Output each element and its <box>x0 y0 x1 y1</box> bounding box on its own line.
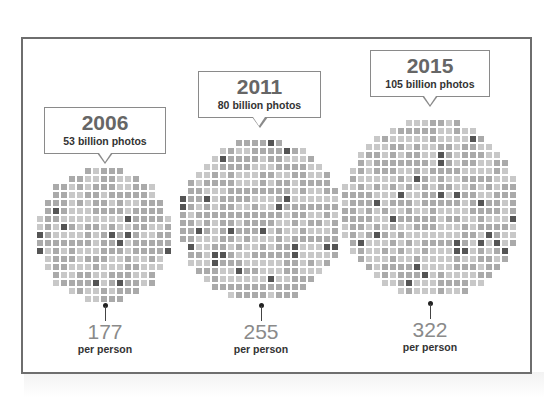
photo-square <box>53 208 59 214</box>
photo-square <box>316 236 322 242</box>
photo-square <box>244 268 250 274</box>
photo-square <box>204 252 210 258</box>
photo-square <box>406 136 412 142</box>
photo-square <box>236 220 242 226</box>
photo-square <box>69 176 75 182</box>
photo-square <box>236 148 242 154</box>
photo-square <box>228 196 234 202</box>
photo-square <box>300 284 306 290</box>
photo-square <box>236 204 242 210</box>
photo-square <box>406 280 412 286</box>
photo-square <box>101 200 107 206</box>
photo-square <box>316 164 322 170</box>
photo-square <box>292 260 298 266</box>
photo-square <box>220 180 226 186</box>
photo-square <box>478 280 484 286</box>
photo-square <box>502 192 508 198</box>
photo-square <box>332 252 338 258</box>
photo-square <box>470 232 476 238</box>
photo-square <box>284 180 290 186</box>
photo-square <box>244 196 250 202</box>
photo-square <box>366 200 372 206</box>
photo-square <box>382 240 388 246</box>
photo-square <box>276 220 282 226</box>
photo-square <box>374 192 380 198</box>
photo-square <box>93 184 99 190</box>
photo-square <box>390 272 396 278</box>
photo-square <box>157 248 163 254</box>
photo-square <box>366 176 372 182</box>
photo-square <box>462 272 468 278</box>
photo-square <box>406 240 412 246</box>
photo-square <box>414 144 420 150</box>
photo-square <box>398 208 404 214</box>
photo-square <box>350 208 356 214</box>
photo-square <box>398 136 404 142</box>
photo-square <box>462 240 468 246</box>
photo-square <box>204 268 210 274</box>
photo-square <box>236 156 242 162</box>
photos-count: 53 billion photos <box>45 135 165 148</box>
photo-square <box>284 228 290 234</box>
photo-square <box>422 120 428 126</box>
photo-square <box>125 216 131 222</box>
photo-square <box>212 180 218 186</box>
photo-square <box>382 176 388 182</box>
photo-square <box>268 260 274 266</box>
photo-square <box>350 200 356 206</box>
photo-square <box>220 212 226 218</box>
photo-square <box>220 252 226 258</box>
photo-square <box>284 268 290 274</box>
photo-square <box>438 280 444 286</box>
photo-square <box>382 200 388 206</box>
photos-count: 80 billion photos <box>199 99 320 112</box>
photo-square <box>228 164 234 170</box>
photo-square <box>85 216 91 222</box>
photo-square <box>77 264 83 270</box>
photo-square <box>93 280 99 286</box>
photo-square <box>101 296 107 302</box>
photo-square <box>133 208 139 214</box>
photo-square <box>430 272 436 278</box>
photo-square <box>350 240 356 246</box>
photo-square <box>292 252 298 258</box>
photo-square <box>276 140 282 146</box>
photo-square <box>414 200 420 206</box>
photo-square <box>470 208 476 214</box>
photo-square <box>422 216 428 222</box>
photo-square <box>228 292 234 298</box>
photo-square <box>101 224 107 230</box>
photo-square <box>390 128 396 134</box>
photo-square <box>502 240 508 246</box>
photo-square <box>236 236 242 242</box>
photo-square <box>422 240 428 246</box>
photo-square <box>430 288 436 294</box>
photo-square <box>61 240 67 246</box>
photo-square <box>510 216 516 222</box>
photo-square <box>220 188 226 194</box>
photo-square <box>398 272 404 278</box>
photo-square <box>117 184 123 190</box>
photo-square <box>61 224 67 230</box>
photo-square <box>133 240 139 246</box>
photo-square <box>414 288 420 294</box>
photo-square <box>478 192 484 198</box>
photo-square <box>382 144 388 150</box>
photo-square <box>109 248 115 254</box>
photo-square <box>446 168 452 174</box>
callout-2006: 2006 53 billion photos <box>44 107 166 154</box>
photo-square <box>284 244 290 250</box>
photo-square <box>101 272 107 278</box>
photo-square <box>109 216 115 222</box>
photo-square <box>212 204 218 210</box>
photo-square <box>438 160 444 166</box>
photo-square <box>141 192 147 198</box>
photo-square <box>276 244 282 250</box>
photo-square <box>486 168 492 174</box>
photo-square <box>149 256 155 262</box>
photo-square <box>276 252 282 258</box>
photo-square <box>77 176 83 182</box>
photo-square <box>165 224 171 230</box>
photo-square <box>430 120 436 126</box>
photo-square <box>141 184 147 190</box>
